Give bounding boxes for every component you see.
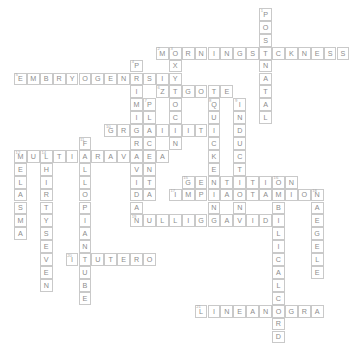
crossword-cell[interactable]: N [285,176,298,189]
crossword-cell[interactable]: L [79,176,92,189]
crossword-cell[interactable]: N [208,202,221,215]
crossword-cell[interactable]: A [14,227,27,240]
crossword-cell[interactable]: S [337,47,349,60]
crossword-cell[interactable]: 8Q [208,98,221,111]
crossword-cell[interactable]: D [233,124,246,137]
crossword-cell[interactable]: V [233,214,246,227]
crossword-cell[interactable]: 14L [40,150,53,163]
crossword-cell[interactable]: M [27,73,40,86]
crossword-cell[interactable]: E [79,292,92,305]
crossword-cell[interactable]: Y [66,73,79,86]
crossword-cell[interactable]: T [195,124,208,137]
crossword-cell[interactable]: L [156,214,169,227]
crossword-cell[interactable]: N [298,47,311,60]
crossword-cell[interactable]: C [208,137,221,150]
crossword-cell[interactable]: G [208,214,221,227]
crossword-cell[interactable]: G [91,73,104,86]
crossword-cell[interactable]: 4P [130,60,143,73]
crossword-cell[interactable]: 12M [14,150,27,163]
crossword-cell[interactable]: I [182,124,195,137]
crossword-cell[interactable]: E [311,47,324,60]
crossword-cell[interactable]: O [79,73,92,86]
crossword-cell[interactable]: N [233,111,246,124]
crossword-cell[interactable]: I [272,240,285,253]
crossword-cell[interactable]: R [130,253,143,266]
crossword-cell[interactable]: T [169,85,182,98]
crossword-cell[interactable]: A [130,202,143,215]
crossword-cell[interactable]: E [40,240,53,253]
crossword-cell[interactable]: U [143,214,156,227]
crossword-cell[interactable]: T [246,189,259,202]
crossword-cell[interactable]: A [272,266,285,279]
crossword-cell[interactable]: E [195,176,208,189]
crossword-cell[interactable]: N [220,305,233,318]
crossword-cell[interactable]: N [259,305,272,318]
crossword-cell[interactable]: O [259,21,272,34]
crossword-cell[interactable]: E [14,163,27,176]
crossword-cell[interactable]: N [40,279,53,292]
crossword-cell[interactable]: 16O [272,176,285,189]
crossword-cell[interactable]: M [130,98,143,111]
crossword-cell[interactable]: 6Z [156,85,169,98]
crossword-cell[interactable]: R [298,305,311,318]
crossword-cell[interactable]: D [272,331,285,343]
crossword-cell[interactable]: A [220,189,233,202]
crossword-cell[interactable]: I [169,124,182,137]
crossword-cell[interactable]: D [130,189,143,202]
crossword-cell[interactable]: 17I [169,189,182,202]
crossword-cell[interactable]: N [79,240,92,253]
crossword-cell[interactable]: C [272,47,285,60]
crossword-cell[interactable]: I [208,305,221,318]
crossword-cell[interactable]: O [169,98,182,111]
crossword-cell[interactable]: E [40,266,53,279]
crossword-cell[interactable]: T [53,150,66,163]
crossword-cell[interactable]: A [311,305,324,318]
crossword-cell[interactable]: I [233,176,246,189]
crossword-cell[interactable]: G [285,305,298,318]
crossword-cell[interactable]: L [14,176,27,189]
crossword-cell[interactable]: R [91,150,104,163]
crossword-cell[interactable]: U [233,137,246,150]
crossword-cell[interactable]: I [66,150,79,163]
crossword-cell[interactable]: P [79,202,92,215]
crossword-cell[interactable]: T [220,176,233,189]
crossword-cell[interactable]: O [195,85,208,98]
crossword-cell[interactable]: T [143,176,156,189]
crossword-cell[interactable]: V [130,163,143,176]
crossword-cell[interactable]: 5E [14,73,27,86]
crossword-cell[interactable]: B [79,279,92,292]
crossword-cell[interactable]: U [79,266,92,279]
crossword-cell[interactable]: N [117,73,130,86]
crossword-cell[interactable]: G [195,214,208,227]
crossword-cell[interactable]: L [143,111,156,124]
crossword-cell[interactable]: C [169,111,182,124]
crossword-cell[interactable]: A [259,73,272,86]
crossword-cell[interactable]: S [324,47,337,60]
crossword-cell[interactable]: 2M [156,47,169,60]
crossword-cell[interactable]: 20I [66,253,79,266]
crossword-cell[interactable]: Y [40,214,53,227]
crossword-cell[interactable]: I [130,85,143,98]
crossword-cell[interactable]: S [246,47,259,60]
crossword-cell[interactable]: L [311,253,324,266]
crossword-cell[interactable]: A [143,124,156,137]
crossword-cell[interactable]: G [130,124,143,137]
crossword-cell[interactable]: R [130,137,143,150]
crossword-cell[interactable]: E [311,214,324,227]
crossword-cell[interactable]: D [259,214,272,227]
crossword-cell[interactable]: E [220,85,233,98]
crossword-cell[interactable]: A [79,227,92,240]
crossword-cell[interactable]: I [285,189,298,202]
crossword-cell[interactable]: U [91,253,104,266]
crossword-cell[interactable]: H [40,163,53,176]
crossword-cell[interactable]: E [311,266,324,279]
crossword-cell[interactable]: N [220,47,233,60]
crossword-cell[interactable]: S [259,34,272,47]
crossword-cell[interactable]: C [143,137,156,150]
crossword-cell[interactable]: A [220,214,233,227]
crossword-cell[interactable]: R [182,47,195,60]
crossword-cell[interactable]: I [208,47,221,60]
crossword-cell[interactable]: A [246,305,259,318]
crossword-cell[interactable]: 21L [195,305,208,318]
crossword-cell[interactable]: A [130,150,143,163]
